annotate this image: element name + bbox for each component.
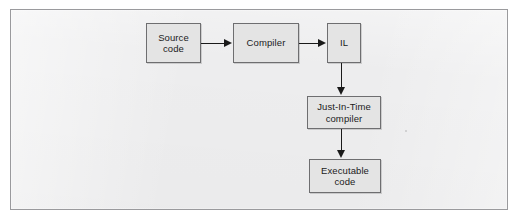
node-executable-code: Executable code [309, 159, 381, 193]
node-compiler: Compiler [233, 23, 299, 63]
screenshot-root: Source code Compiler IL Just-In-Time com… [0, 0, 519, 221]
node-executable-code-label: Executable code [318, 165, 372, 188]
node-just-in-time-compiler-label: Just-In-Time compiler [314, 101, 374, 124]
node-source-code: Source code [146, 23, 201, 63]
diagram-panel: Source code Compiler IL Just-In-Time com… [10, 9, 508, 210]
node-il-label: IL [337, 37, 351, 49]
connector-il-to-jit [341, 63, 343, 88]
node-compiler-label: Compiler [244, 37, 289, 49]
arrowhead-down-icon-il-to-jit [337, 87, 345, 95]
node-il: IL [327, 23, 361, 63]
arrowhead-right-icon-source-to-compiler [224, 39, 232, 47]
connector-compiler-to-il [299, 43, 319, 45]
scan-artifact-speck [405, 130, 407, 132]
arrowhead-right-icon-compiler-to-il [318, 39, 326, 47]
connector-source-to-compiler [201, 43, 225, 45]
node-source-code-label: Source code [155, 32, 192, 55]
connector-jit-to-executable [341, 129, 343, 151]
node-just-in-time-compiler: Just-In-Time compiler [307, 96, 381, 129]
arrowhead-down-icon-jit-to-executable [337, 150, 345, 158]
